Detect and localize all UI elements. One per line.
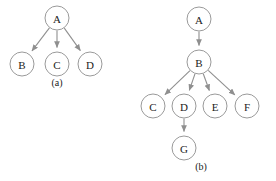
graph-node-b-A[interactable]: A	[187, 7, 211, 31]
node-label-b-B: B	[195, 57, 202, 69]
graph-edge-b-B-E	[203, 74, 209, 91]
node-label-b-E: E	[212, 101, 219, 113]
node-label-b-F: F	[244, 101, 250, 113]
graph-edge-a-A-D	[64, 28, 80, 50]
graph-edge-a-A-B	[32, 28, 49, 51]
node-label-b-C: C	[149, 101, 156, 113]
node-label-b-A: A	[195, 14, 203, 26]
node-label-b-G: G	[180, 143, 188, 155]
graph-node-a-A[interactable]: A	[45, 6, 69, 30]
graph-node-a-D[interactable]: D	[78, 52, 102, 76]
graph-node-b-G[interactable]: G	[172, 136, 196, 160]
graph-svg: ABCDABCDEFG (a)(b)	[0, 0, 276, 181]
graph-node-b-E[interactable]: E	[203, 94, 227, 118]
node-label-a-B: B	[18, 59, 25, 71]
graph-node-b-F[interactable]: F	[235, 94, 259, 118]
diagram-canvas: ABCDABCDEFG (a)(b)	[0, 0, 276, 181]
node-label-b-D: D	[180, 101, 188, 113]
graph-node-a-B[interactable]: B	[10, 52, 34, 76]
node-label-a-C: C	[53, 59, 60, 71]
graph-node-b-B[interactable]: B	[187, 50, 211, 74]
graph-edge-b-B-C	[165, 71, 190, 95]
node-label-a-D: D	[86, 59, 94, 71]
graph-node-b-D[interactable]: D	[172, 94, 196, 118]
node-label-a-A: A	[53, 13, 61, 25]
graph-node-a-C[interactable]: C	[45, 52, 69, 76]
subfigure-caption-a: (a)	[51, 77, 62, 89]
subfigure-caption-b: (b)	[195, 161, 207, 173]
graph-node-b-C[interactable]: C	[141, 94, 165, 118]
graph-edge-b-B-D	[189, 74, 195, 91]
graph-edge-b-B-F	[208, 70, 235, 94]
